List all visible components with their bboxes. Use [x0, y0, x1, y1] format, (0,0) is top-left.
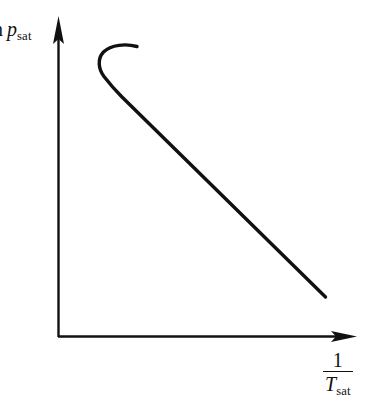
- x-axis-label-numerator: 1: [322, 350, 354, 371]
- x-axis-label-denominator-variable: T: [325, 373, 336, 395]
- y-axis-label-subscript: sat: [17, 29, 32, 43]
- x-axis-label-denominator-subscript: sat: [336, 384, 351, 398]
- saturation-curve: [99, 45, 325, 297]
- y-axis-label: npsat: [0, 19, 32, 39]
- x-axis-label-denominator: Tsat: [322, 372, 354, 394]
- x-axis-label: 1 Tsat: [322, 350, 354, 394]
- figure-container: npsat 1 Tsat: [0, 0, 378, 416]
- y-axis-label-variable: p: [3, 18, 17, 40]
- x-axis-label-fraction: 1 Tsat: [322, 350, 354, 394]
